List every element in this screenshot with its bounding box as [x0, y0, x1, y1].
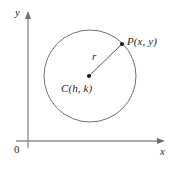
y-axis-label: y — [15, 7, 20, 18]
center-point-dot — [87, 74, 91, 78]
point-label: P(x, y) — [127, 36, 157, 47]
circle-diagram-figure: y x 0 r C(h, k) P(x, y) — [0, 0, 180, 171]
x-axis-label: x — [160, 146, 165, 157]
center-label: C(h, k) — [61, 83, 92, 94]
origin-label: 0 — [14, 144, 20, 155]
radius-label: r — [92, 51, 96, 62]
x-axis-arrowhead — [157, 138, 165, 144]
y-axis-arrowhead — [25, 11, 31, 19]
circle-point-dot — [120, 42, 124, 46]
